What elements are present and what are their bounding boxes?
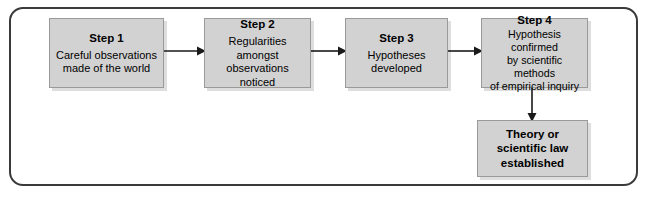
arrow-step-1-to-step-2 <box>164 45 206 57</box>
arrow-step-2-to-step-3 <box>311 45 347 57</box>
arrow-step-3-to-step-4 <box>448 45 483 57</box>
flow-box-step-3-title: Step 3 <box>379 31 414 46</box>
flow-box-step-3: Step 3 Hypotheses developed <box>345 18 448 88</box>
flow-box-theory-established: Theory or scientific law established <box>477 120 588 177</box>
flow-box-step-1-body: Careful observations made of the world <box>56 49 157 76</box>
flow-box-step-1-title: Step 1 <box>89 31 124 46</box>
flow-box-step-1: Step 1 Careful observations made of the … <box>49 18 164 88</box>
flow-box-step-2-title: Step 2 <box>240 17 275 32</box>
arrow-step-4-to-theory <box>526 88 538 122</box>
flow-box-step-4-title: Step 4 <box>517 13 552 28</box>
flow-box-step-3-body: Hypotheses developed <box>367 49 425 76</box>
flow-box-step-2: Step 2 Regularities amongst observations… <box>204 18 311 88</box>
flow-box-theory-established-body: Theory or scientific law established <box>497 127 569 171</box>
flow-box-step-2-body: Regularities amongst observations notice… <box>208 35 307 89</box>
diagram-canvas: Step 1 Careful observations made of the … <box>0 0 649 197</box>
flow-box-step-4: Step 4 Hypothesis confirmed by scientifi… <box>481 18 588 88</box>
flow-box-step-4-body: Hypothesis confirmed by scientific metho… <box>485 28 584 93</box>
